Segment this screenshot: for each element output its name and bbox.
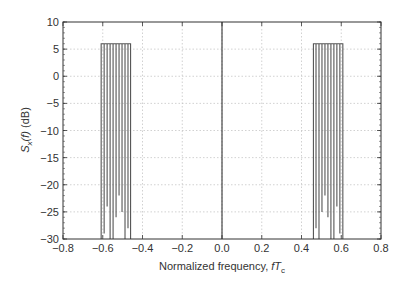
y-tick-label: 10: [47, 16, 59, 28]
y-tick-label: −25: [40, 206, 59, 218]
spectrum-band: [101, 44, 130, 239]
x-axis-label: Normalized frequency, fTc: [159, 260, 285, 275]
x-tick-label: −0.4: [132, 242, 154, 254]
y-tick-label: −10: [40, 125, 59, 137]
x-tick-label: 0.0: [214, 242, 229, 254]
y-tick-label: −15: [40, 152, 59, 164]
x-tick-label: −0.2: [171, 242, 193, 254]
spectrum-chart: −0.8−0.6−0.4−0.20.00.20.40.60.8 1050−5−1…: [0, 0, 410, 282]
y-axis-label: Sx(f) (dB): [19, 107, 34, 153]
y-tick-label: −5: [46, 97, 59, 109]
x-tick-label: 0.6: [334, 242, 349, 254]
x-tick-label: −0.6: [92, 242, 114, 254]
spectrum-band: [313, 44, 342, 239]
x-tick-labels: −0.8−0.6−0.4−0.20.00.20.40.60.8: [52, 242, 389, 254]
y-tick-label: 5: [53, 43, 59, 55]
x-tick-label: 0.4: [294, 242, 309, 254]
y-tick-label: −30: [40, 233, 59, 245]
x-tick-label: 0.8: [373, 242, 388, 254]
y-tick-label: −20: [40, 179, 59, 191]
x-tick-label: 0.2: [254, 242, 269, 254]
y-tick-labels: 1050−5−10−15−20−25−30: [40, 16, 59, 245]
y-tick-label: 0: [53, 70, 59, 82]
